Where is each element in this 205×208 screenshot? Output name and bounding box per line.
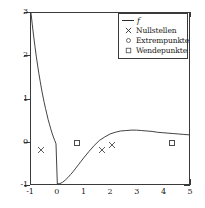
y-tick-label: 1 xyxy=(4,95,28,103)
legend-label: Wendepunkte xyxy=(136,46,187,56)
y-tick-right xyxy=(184,185,190,186)
legend-entry-nullstellen: Nullstellen xyxy=(121,26,184,36)
legend-x-icon xyxy=(121,26,136,36)
legend-label: Extrempunkte xyxy=(136,36,189,46)
legend-square-icon xyxy=(121,46,136,56)
chart-legend: fNullstellenExtrempunkteWendepunkte xyxy=(118,13,188,59)
y-tick-label: 0 xyxy=(4,138,28,146)
legend-entry-wendepunkte: Wendepunkte xyxy=(121,46,184,56)
chart-figure: 3210-1 -1012345 fNullstellenExtrempunkte… xyxy=(0,0,205,208)
x-tick-label: 4 xyxy=(153,188,173,196)
y-tick-label: 3 xyxy=(4,8,28,16)
legend-circle-icon xyxy=(121,36,136,46)
y-tick-label: 2 xyxy=(4,51,28,59)
legend-label: f xyxy=(136,16,140,26)
x-tick-label: 5 xyxy=(180,188,200,196)
legend-line-icon xyxy=(121,16,136,26)
legend-entry-f: f xyxy=(121,16,184,26)
legend-entry-extrempunkte: Extrempunkte xyxy=(121,36,184,46)
x-tick-label: 1 xyxy=(73,188,93,196)
x-tick-label: 2 xyxy=(100,188,120,196)
legend-label: Nullstellen xyxy=(136,26,176,36)
x-tick-label: 0 xyxy=(47,188,67,196)
x-tick-label: -1 xyxy=(20,188,40,196)
x-tick-label: 3 xyxy=(127,188,147,196)
x-tick xyxy=(190,179,191,185)
x-tick-top xyxy=(190,12,191,17)
